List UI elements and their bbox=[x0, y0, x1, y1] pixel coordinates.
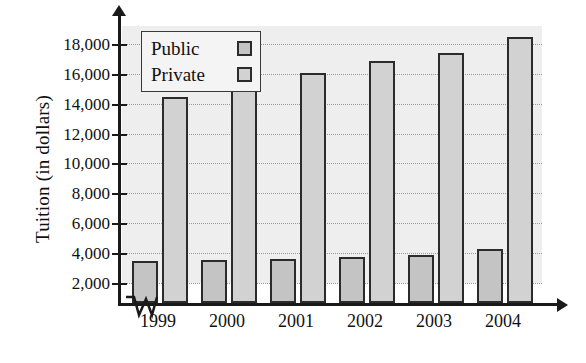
y-tick-label: 16,000 bbox=[32, 66, 110, 83]
bar-private-1999 bbox=[162, 97, 188, 303]
y-tick-label: 8,000 bbox=[32, 185, 110, 202]
y-tick-label: 14,000 bbox=[32, 96, 110, 113]
bar-private-2002 bbox=[369, 61, 395, 303]
y-tick-mark bbox=[112, 253, 127, 255]
y-tick-label: 6,000 bbox=[32, 215, 110, 232]
y-axis bbox=[118, 14, 121, 306]
bar-private-2004 bbox=[507, 37, 533, 303]
x-tick-label-2000: 2000 bbox=[187, 312, 267, 330]
legend: Public Private bbox=[141, 31, 261, 92]
legend-swatch-private bbox=[237, 67, 252, 82]
y-tick-mark bbox=[112, 44, 127, 46]
y-tick-mark bbox=[112, 283, 127, 285]
y-tick-mark bbox=[112, 134, 127, 136]
x-tick-label-2003: 2003 bbox=[394, 312, 474, 330]
y-tick-mark bbox=[112, 163, 127, 165]
y-tick-label: 18,000 bbox=[32, 36, 110, 53]
y-tick-mark bbox=[112, 193, 127, 195]
bar-public-2002 bbox=[339, 257, 365, 303]
y-axis-arrow-icon bbox=[112, 5, 126, 16]
x-tick-label-2001: 2001 bbox=[256, 312, 336, 330]
x-axis-arrow-icon bbox=[557, 298, 568, 312]
bar-public-2003 bbox=[408, 255, 434, 303]
y-tick-label: 4,000 bbox=[32, 245, 110, 262]
bar-private-2001 bbox=[300, 73, 326, 303]
legend-swatch-public bbox=[237, 41, 252, 56]
bar-private-2000 bbox=[231, 86, 257, 303]
y-tick-mark bbox=[112, 74, 127, 76]
bar-public-2004 bbox=[477, 249, 503, 303]
legend-label-public: Public bbox=[151, 39, 231, 58]
bar-private-2003 bbox=[438, 53, 464, 303]
y-tick-mark bbox=[112, 223, 127, 225]
x-tick-label-2002: 2002 bbox=[325, 312, 405, 330]
x-axis bbox=[118, 303, 560, 306]
y-tick-label: 12,000 bbox=[32, 126, 110, 143]
bar-public-2001 bbox=[270, 259, 296, 303]
legend-item-public: Public bbox=[151, 35, 252, 61]
y-tick-mark bbox=[112, 104, 127, 106]
y-tick-label: 10,000 bbox=[32, 155, 110, 172]
bar-public-2000 bbox=[201, 260, 227, 303]
legend-item-private: Private bbox=[151, 61, 252, 87]
tuition-bar-chart: Tuition (in dollars) bbox=[0, 0, 586, 363]
x-tick-label-1999: 1999 bbox=[118, 312, 198, 330]
legend-label-private: Private bbox=[151, 65, 231, 84]
y-tick-label: 2,000 bbox=[32, 275, 110, 292]
x-tick-label-2004: 2004 bbox=[463, 312, 543, 330]
